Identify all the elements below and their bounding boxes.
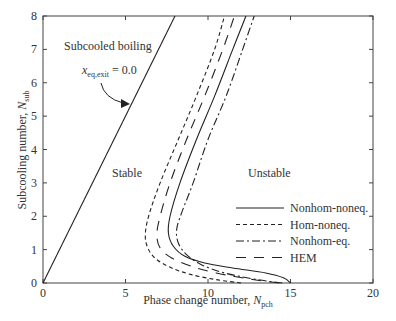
legend-label: HEM xyxy=(290,251,317,265)
x-axis-label: Phase change number, Npch xyxy=(143,293,273,309)
legend-label: Nonhom-noneq. xyxy=(290,201,368,215)
arrowhead-icon xyxy=(121,99,130,108)
legend-label: Hom-noneq. xyxy=(290,218,350,232)
x-tick-label: 20 xyxy=(367,286,379,300)
series-line xyxy=(43,16,175,283)
x-tick-label: 15 xyxy=(285,286,297,300)
series-line xyxy=(145,16,241,283)
boundary-label: xeq,exit = 0.0 xyxy=(81,63,137,79)
y-axis-label: Subcooling number, Nsub xyxy=(15,91,31,210)
y-tick-label: 1 xyxy=(31,243,37,257)
boundary-arrow xyxy=(101,83,123,103)
x-tick-label: 5 xyxy=(123,286,129,300)
region-stable-label: Stable xyxy=(112,166,142,180)
y-tick-label: 8 xyxy=(31,9,37,23)
y-tick-label: 4 xyxy=(31,143,37,157)
y-tick-label: 2 xyxy=(31,209,37,223)
data-series xyxy=(43,16,291,283)
series-line xyxy=(157,16,279,283)
y-tick-label: 5 xyxy=(31,109,37,123)
legend: Nonhom-noneq.Hom-noneq.Nonhom-eq.HEM xyxy=(236,201,368,265)
y-tick-label: 3 xyxy=(31,176,37,190)
y-tick-label: 7 xyxy=(31,42,37,56)
y-tick-label: 6 xyxy=(31,76,37,90)
region-subcooled-label: Subcooled boiling xyxy=(64,39,152,53)
region-unstable-label: Unstable xyxy=(248,166,291,180)
x-tick-label: 0 xyxy=(40,286,46,300)
series-line xyxy=(168,16,290,283)
chart: 05101520012345678 Nonhom-noneq.Hom-noneq… xyxy=(0,0,396,321)
legend-label: Nonhom-eq. xyxy=(290,234,350,248)
y-tick-label: 0 xyxy=(31,276,37,290)
